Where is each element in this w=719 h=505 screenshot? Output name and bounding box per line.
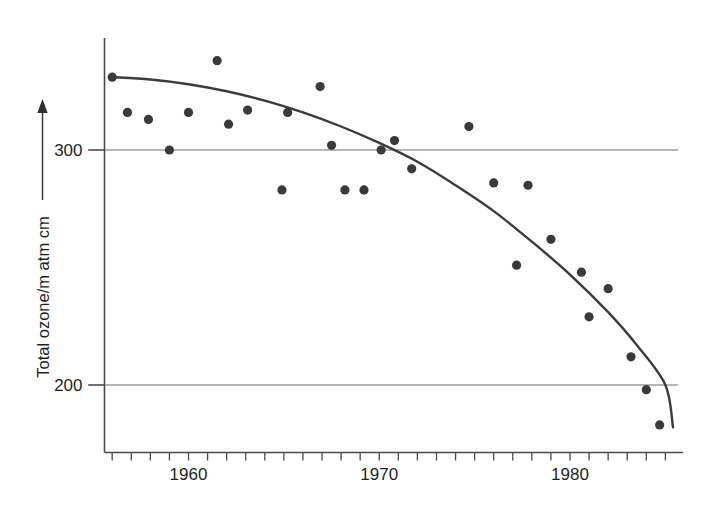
data-point <box>464 122 473 131</box>
data-point <box>626 352 635 361</box>
data-point <box>277 185 286 194</box>
data-point <box>340 185 349 194</box>
x-tick-label-1980: 1980 <box>551 465 589 484</box>
data-point <box>489 178 498 187</box>
data-point <box>283 108 292 117</box>
trend-curve <box>112 77 673 427</box>
data-point <box>184 108 193 117</box>
data-points-layer <box>108 56 665 429</box>
data-point <box>213 56 222 65</box>
data-point <box>165 145 174 154</box>
data-point <box>642 385 651 394</box>
x-tick-label-1970: 1970 <box>360 465 398 484</box>
data-point <box>407 164 416 173</box>
data-point <box>144 115 153 124</box>
data-point <box>316 82 325 91</box>
y-axis-label-layer: Total ozone/m atm cm <box>34 99 52 378</box>
data-point <box>584 312 593 321</box>
axis-lines <box>105 38 684 453</box>
trend-curve-layer <box>112 77 673 427</box>
data-point <box>224 120 233 129</box>
data-point <box>523 181 532 190</box>
data-point <box>390 136 399 145</box>
data-point <box>512 261 521 270</box>
y-tick-label-200: 200 <box>54 376 82 395</box>
x-tick-label-1960: 1960 <box>170 465 208 484</box>
data-point <box>243 105 252 114</box>
data-point <box>577 268 586 277</box>
data-point <box>604 284 613 293</box>
grid-lines <box>88 150 678 385</box>
tick-marks <box>89 150 666 461</box>
data-point <box>123 108 132 117</box>
y-axis-arrow-head <box>37 99 47 113</box>
data-point <box>327 141 336 150</box>
data-point <box>377 145 386 154</box>
y-axis-title: Total ozone/m atm cm <box>34 216 52 377</box>
data-point <box>108 73 117 82</box>
data-point <box>655 420 664 429</box>
y-tick-label-300: 300 <box>54 141 82 160</box>
ozone-chart: 196019701980300200 Total ozone/m atm cm <box>0 0 719 505</box>
data-point <box>359 185 368 194</box>
chart-canvas: 196019701980300200 Total ozone/m atm cm <box>0 0 719 505</box>
tick-labels-layer: 196019701980300200 <box>54 141 589 484</box>
data-point <box>546 235 555 244</box>
